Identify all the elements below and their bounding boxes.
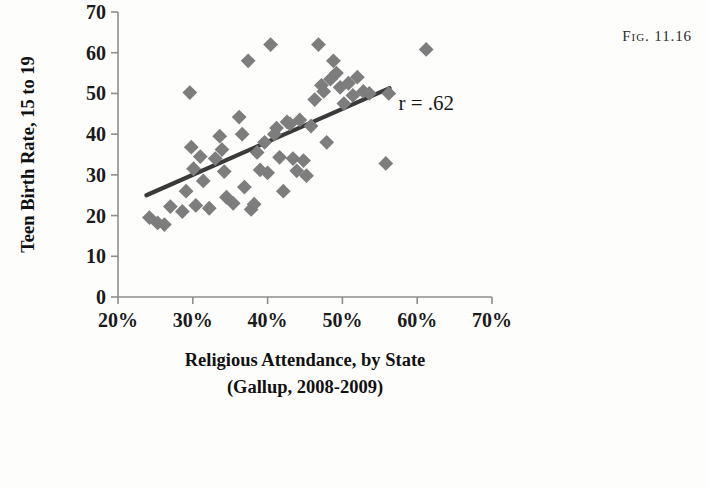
x-tick-label: 20%: [98, 309, 138, 331]
y-tick-label: 70: [86, 1, 106, 23]
data-point-marker: [196, 174, 211, 189]
x-tick-label: 40%: [248, 309, 288, 331]
figure-label: Fig. 11.16: [622, 28, 692, 45]
data-point-marker: [326, 53, 341, 68]
data-point-marker: [179, 184, 194, 199]
data-point-marker: [241, 53, 256, 68]
data-point-marker: [319, 135, 334, 150]
y-axis-title: Teen Birth Rate, 15 to 19: [18, 56, 38, 253]
data-point-marker: [184, 140, 199, 155]
data-point-marker: [217, 164, 232, 179]
y-tick-label: 20: [86, 205, 106, 227]
scatter-chart: 01020304050607020%30%40%50%60%70%r = .62…: [0, 0, 540, 460]
y-tick-label: 50: [86, 82, 106, 104]
correlation-annotation: r = .62: [399, 91, 455, 115]
x-tick-label: 60%: [397, 309, 437, 331]
figure-root: Fig. 11.16 01020304050607020%30%40%50%60…: [0, 0, 708, 488]
y-tick-label: 60: [86, 42, 106, 64]
chart-canvas: 01020304050607020%30%40%50%60%70%r = .62…: [0, 0, 540, 460]
data-point-marker: [188, 198, 203, 213]
data-point-marker: [276, 184, 291, 199]
y-tick-label: 10: [86, 245, 106, 267]
y-tick-label: 40: [86, 123, 106, 145]
data-point-marker: [202, 201, 217, 216]
x-tick-label: 50%: [322, 309, 362, 331]
data-point-marker: [232, 110, 247, 125]
data-point-marker: [272, 150, 287, 165]
data-point-marker: [419, 42, 434, 57]
data-point-marker: [212, 129, 227, 144]
y-tick-label: 0: [96, 286, 106, 308]
data-point-marker: [381, 86, 396, 101]
data-point-marker: [193, 149, 208, 164]
x-tick-label: 70%: [472, 309, 512, 331]
data-point-marker: [237, 180, 252, 195]
data-point-marker: [182, 85, 197, 100]
data-point-marker: [378, 156, 393, 171]
data-point-marker: [311, 37, 326, 52]
x-axis-title: Religious Attendance, by State: [185, 350, 426, 370]
y-tick-label: 30: [86, 164, 106, 186]
data-point-marker: [235, 127, 250, 142]
x-tick-label: 30%: [173, 309, 213, 331]
data-point-marker: [263, 37, 278, 52]
x-axis-subtitle: (Gallup, 2008-2009): [227, 377, 383, 398]
